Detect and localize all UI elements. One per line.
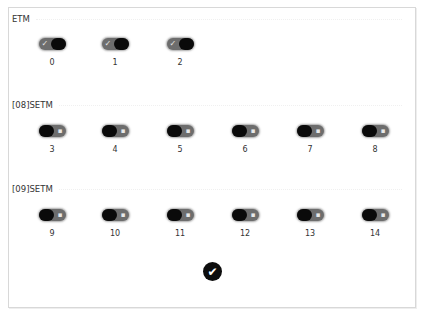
off-indicator-icon: ▪ (121, 210, 126, 220)
toggle-label: 4 (112, 145, 117, 154)
toggle-label: 3 (49, 145, 54, 154)
toggle-label: 10 (110, 229, 120, 238)
checkmark-icon: ✔ (207, 265, 217, 279)
toggle-cell-9: ▪ 9 (32, 209, 72, 238)
section-title: ETM (12, 14, 30, 24)
toggle-3[interactable]: ▪ (39, 125, 66, 137)
toggle-label: 11 (175, 229, 185, 238)
toggle-1[interactable]: ✓ (102, 38, 129, 50)
toggle-0[interactable]: ✓ (39, 38, 66, 50)
toggle-9[interactable]: ▪ (39, 209, 66, 221)
check-icon: ✓ (42, 39, 49, 49)
toggle-cell-5: ▪ 5 (160, 125, 200, 154)
toggle-knob (39, 125, 54, 137)
toggle-cell-1: ✓ 1 (95, 38, 135, 67)
section-title: [09]SETM (12, 184, 53, 194)
section-divider (59, 105, 402, 106)
toggle-cell-14: ▪ 14 (355, 209, 395, 238)
toggle-label: 0 (49, 58, 54, 67)
check-icon: ✓ (105, 39, 112, 49)
toggle-14[interactable]: ▪ (362, 209, 389, 221)
off-indicator-icon: ▪ (58, 210, 63, 220)
toggle-knob (114, 38, 129, 50)
toggle-cell-13: ▪ 13 (290, 209, 330, 238)
toggle-knob (39, 209, 54, 221)
toggle-cell-6: ▪ 6 (225, 125, 265, 154)
toggle-label: 13 (305, 229, 315, 238)
toggle-knob (167, 209, 182, 221)
toggle-knob (179, 38, 194, 50)
toggle-2[interactable]: ✓ (167, 38, 194, 50)
toggle-7[interactable]: ▪ (297, 125, 324, 137)
off-indicator-icon: ▪ (316, 126, 321, 136)
toggle-knob (102, 125, 117, 137)
toggle-6[interactable]: ▪ (232, 125, 259, 137)
toggle-knob (362, 125, 377, 137)
toggle-knob (167, 125, 182, 137)
toggle-label: 1 (112, 58, 117, 67)
toggle-10[interactable]: ▪ (102, 209, 129, 221)
toggle-knob (232, 209, 247, 221)
toggle-cell-2: ✓ 2 (160, 38, 200, 67)
toggle-label: 6 (242, 145, 247, 154)
toggle-5[interactable]: ▪ (167, 125, 194, 137)
toggle-11[interactable]: ▪ (167, 209, 194, 221)
toggle-cell-10: ▪ 10 (95, 209, 135, 238)
toggle-knob (232, 125, 247, 137)
toggle-knob (297, 125, 312, 137)
check-icon: ✓ (170, 39, 177, 49)
off-indicator-icon: ▪ (58, 126, 63, 136)
off-indicator-icon: ▪ (251, 210, 256, 220)
toggle-4[interactable]: ▪ (102, 125, 129, 137)
toggle-label: 8 (372, 145, 377, 154)
confirm-button[interactable]: ✔ (203, 262, 222, 281)
toggle-knob (362, 209, 377, 221)
toggle-label: 12 (240, 229, 250, 238)
off-indicator-icon: ▪ (381, 210, 386, 220)
off-indicator-icon: ▪ (316, 210, 321, 220)
toggle-cell-0: ✓ 0 (32, 38, 72, 67)
toggle-label: 7 (307, 145, 312, 154)
section-label-etm: ETM (12, 14, 402, 24)
toggle-label: 5 (177, 145, 182, 154)
section-divider (59, 189, 402, 190)
off-indicator-icon: ▪ (121, 126, 126, 136)
off-indicator-icon: ▪ (186, 210, 191, 220)
toggle-label: 2 (177, 58, 182, 67)
toggle-cell-3: ▪ 3 (32, 125, 72, 154)
section-divider (36, 19, 402, 20)
toggle-knob (102, 209, 117, 221)
toggle-13[interactable]: ▪ (297, 209, 324, 221)
section-label-08-setm: [08]SETM (12, 100, 402, 110)
toggle-cell-4: ▪ 4 (95, 125, 135, 154)
toggle-cell-11: ▪ 11 (160, 209, 200, 238)
toggle-knob (51, 38, 66, 50)
section-label-09-setm: [09]SETM (12, 184, 402, 194)
off-indicator-icon: ▪ (251, 126, 256, 136)
toggle-cell-8: ▪ 8 (355, 125, 395, 154)
toggle-cell-7: ▪ 7 (290, 125, 330, 154)
toggle-12[interactable]: ▪ (232, 209, 259, 221)
toggle-label: 9 (49, 229, 54, 238)
section-title: [08]SETM (12, 100, 53, 110)
off-indicator-icon: ▪ (186, 126, 191, 136)
off-indicator-icon: ▪ (381, 126, 386, 136)
toggle-label: 14 (370, 229, 380, 238)
toggle-knob (297, 209, 312, 221)
toggle-cell-12: ▪ 12 (225, 209, 265, 238)
toggle-8[interactable]: ▪ (362, 125, 389, 137)
